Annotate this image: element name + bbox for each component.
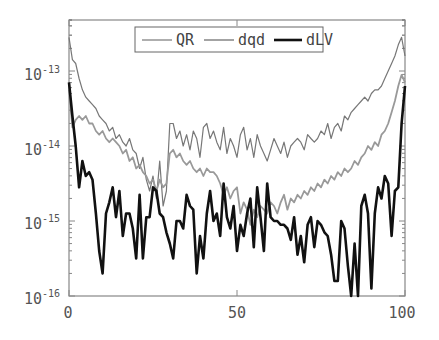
y-axis-labels: 10-13 10-14 10-15 10-16 [24, 64, 60, 308]
x-tick-label: 0 [63, 304, 72, 322]
legend-label-qr: QR [176, 31, 195, 49]
legend: QR dqd dLV [135, 27, 333, 52]
chart-canvas: 10-13 10-14 10-15 10-16 0 50 100 QR dqd … [0, 0, 439, 340]
legend-label-dlv: dLV [306, 31, 333, 49]
legend-label-dqd: dqd [238, 31, 265, 49]
x-axis-labels: 0 50 100 [63, 304, 415, 322]
y-tick-label: 10-14 [24, 139, 60, 159]
y-tick-label: 10-16 [24, 288, 60, 308]
x-tick-label: 50 [228, 304, 246, 322]
y-tick-label: 10-13 [24, 64, 60, 84]
x-tick-label: 100 [388, 304, 415, 322]
y-tick-label: 10-15 [24, 213, 60, 233]
